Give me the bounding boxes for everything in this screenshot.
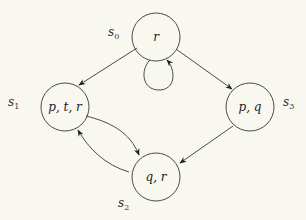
edge-s3-s2 — [180, 126, 233, 163]
edge-s0-s1 — [79, 48, 137, 85]
edge-s2-s1 — [78, 130, 129, 172]
state-s0: r s0 — [108, 13, 180, 61]
state-label: r — [153, 30, 160, 44]
state-label: p, t, r — [48, 100, 83, 114]
kripke-diagram: r s0 p, t, r s1 p, q s3 q, r s2 — [0, 0, 306, 220]
state-s1: p, t, r s1 — [8, 83, 89, 131]
state-name: s2 — [118, 196, 129, 212]
state-s3: p, q s3 — [226, 83, 294, 131]
state-label: q, r — [145, 170, 167, 184]
state-name: s0 — [108, 25, 119, 41]
edge-s0-s0-self-loop — [144, 60, 173, 90]
state-label: p, q — [239, 100, 262, 114]
state-name: s1 — [8, 95, 19, 111]
state-name: s3 — [283, 95, 294, 111]
edge-s0-s3 — [176, 49, 232, 89]
edge-s1-s2 — [86, 116, 139, 155]
state-s2: q, r s2 — [118, 153, 180, 212]
